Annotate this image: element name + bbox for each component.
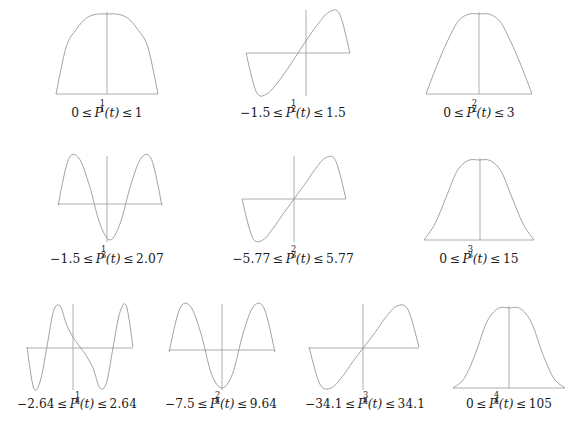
plot-row-1: 0≤P11(t)≤1 −1.5≤P12(t)≤1.5 0≤P22(t)≤3: [0, 0, 586, 146]
figure-container: 0≤P11(t)≤1 −1.5≤P12(t)≤1.5 0≤P22(t)≤3: [0, 0, 586, 443]
plot-cell-P-2-1: −1.5≤P12(t)≤1.5: [204, 0, 382, 146]
plot-P-3-2: [218, 146, 368, 250]
plot-P-2-2: [404, 0, 554, 104]
plot-caption-P-4-3: −34.1≤P34(t)≤34.1: [305, 398, 425, 412]
plot-cell-P-4-2: −7.5≤P24(t)≤9.64: [150, 292, 292, 443]
plot-caption-P-4-1: −2.64≤P14(t)≤2.64: [17, 398, 137, 412]
plot-cell-P-2-2: 0≤P22(t)≤3: [390, 0, 568, 146]
plot-P-3-3: [404, 146, 554, 250]
plot-P-4-2: [151, 292, 291, 396]
plot-cell-P-4-4: 0≤P44(t)≤105: [438, 292, 580, 443]
plot-caption-P-3-2: −5.77≤P23(t)≤5.77: [232, 252, 354, 266]
plot-P-1-1: [32, 0, 182, 104]
plot-P-4-3: [295, 292, 435, 396]
plot-caption-P-4-4: 0≤P44(t)≤105: [466, 398, 552, 412]
curve: [424, 160, 534, 240]
plot-caption-P-1-1: 0≤P11(t)≤1: [71, 106, 143, 120]
plot-caption-P-3-1: −1.5≤P13(t)≤2.07: [50, 252, 164, 266]
curve: [58, 154, 162, 240]
curve: [27, 304, 133, 391]
plot-cell-P-3-2: −5.77≤P23(t)≤5.77: [204, 146, 382, 292]
plot-cell-P-4-3: −34.1≤P34(t)≤34.1: [294, 292, 436, 443]
plot-caption-P-4-2: −7.5≤P24(t)≤9.64: [165, 398, 277, 412]
plot-cell-P-3-1: −1.5≤P13(t)≤2.07: [18, 146, 196, 292]
plot-P-2-1: [218, 0, 368, 104]
curve: [309, 305, 419, 389]
plot-caption-P-2-2: 0≤P22(t)≤3: [443, 106, 515, 120]
plot-P-4-4: [439, 292, 579, 396]
plot-P-3-1: [32, 146, 182, 250]
plot-row-2: −1.5≤P13(t)≤2.07 −5.77≤P23(t)≤5.77 0≤P33…: [0, 146, 586, 292]
plot-caption-P-3-3: 0≤P33(t)≤15: [439, 252, 519, 266]
plot-P-4-1: [7, 292, 147, 396]
plot-cell-P-1-1: 0≤P11(t)≤1: [18, 0, 196, 146]
plot-row-3: −2.64≤P14(t)≤2.64 −7.5≤P24(t)≤9.64 −34.1…: [0, 292, 586, 443]
plot-cell-P-3-3: 0≤P33(t)≤15: [390, 146, 568, 292]
plot-cell-P-4-1: −2.64≤P14(t)≤2.64: [6, 292, 148, 443]
plot-caption-P-2-1: −1.5≤P12(t)≤1.5: [240, 106, 346, 120]
